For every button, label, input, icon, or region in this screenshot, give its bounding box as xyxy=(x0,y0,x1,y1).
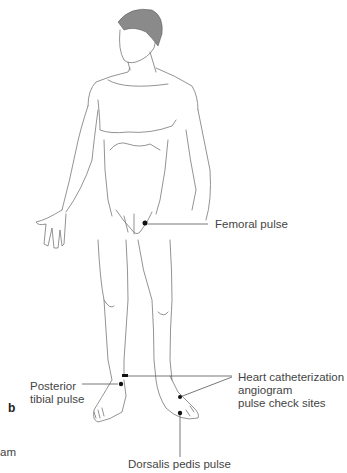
dorsalis-pedis-pulse-dot xyxy=(178,411,182,415)
femoral-pulse-label: Femoral pulse xyxy=(215,218,288,231)
heart-catheterization-label: Heart catheterization angiogram pulse ch… xyxy=(238,371,344,410)
cropped-caption-text: am xyxy=(0,446,16,459)
heart-cath-pointer-line-lower xyxy=(180,377,232,397)
hair xyxy=(118,9,162,46)
posterior-tibial-line-1: Posterior xyxy=(30,380,84,393)
heart-cath-site-dot xyxy=(178,395,182,399)
femoral-pulse-dot xyxy=(143,221,148,226)
posterior-tibial-line-2: tibial pulse xyxy=(30,393,84,406)
dorsalis-pedis-pulse-label: Dorsalis pedis pulse xyxy=(128,458,231,471)
heart-cath-line-1: Heart catheterization xyxy=(238,371,344,384)
posterior-tibial-pulse-dot xyxy=(119,382,123,386)
heart-cath-line-3: pulse check sites xyxy=(238,397,344,410)
heart-cath-site-marker xyxy=(122,374,128,377)
panel-letter: b xyxy=(8,402,15,415)
heart-cath-line-2: angiogram xyxy=(238,384,344,397)
posterior-tibial-pulse-label: Posterior tibial pulse xyxy=(30,380,84,406)
